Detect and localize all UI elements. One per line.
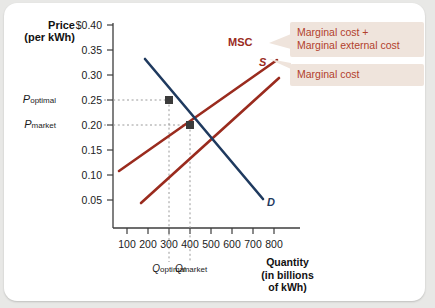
price-label-market-sub: market (32, 121, 56, 130)
x-axis-title-line3: of kWh) (240, 281, 335, 294)
y-tick-label-2: 0.30 (58, 69, 102, 81)
y-tick-label-6: 0.10 (58, 169, 102, 181)
price-label-market: Pmarket (8, 118, 56, 130)
y-tick-label-3: 0.25 (58, 94, 102, 106)
x-axis-title-line2: (in billions (240, 269, 335, 282)
callout-marginal-cost: Marginal cost (290, 64, 424, 86)
price-label-optimal: Poptimal (8, 93, 56, 105)
curve-label-msc: MSC (228, 36, 252, 48)
callout-msc-line2: Marginal external cost (297, 39, 417, 52)
callout-mc-line1: Marginal cost (297, 68, 417, 81)
callout-msc-line1: Marginal cost + (297, 26, 417, 39)
x-tick-label-7: 800 (260, 238, 288, 250)
curve-label-demand: D (267, 196, 275, 208)
qty-label-optimal-letter: Q (152, 263, 160, 274)
y-axis-title-line2: (per kWh) (10, 31, 75, 43)
callout-marginal-social-cost: Marginal cost + Marginal external cost (290, 22, 424, 57)
qty-label-market-letter: Q (175, 263, 183, 274)
curve-demand (145, 59, 263, 199)
x-axis-title-line1: Quantity (240, 256, 335, 269)
equilibrium-marker-market (186, 121, 194, 129)
qty-label-market: Qmarket (167, 263, 215, 274)
curve-label-supply: S (259, 56, 266, 68)
y-tick-label-0: $0.40 (58, 19, 102, 31)
y-tick-label-4: 0.20 (58, 119, 102, 131)
y-tick-label-7: 0.05 (58, 194, 102, 206)
x-axis-title: Quantity (in billions of kWh) (240, 256, 335, 294)
x-tick-marks (127, 228, 274, 234)
callout-pointer-msc (269, 34, 291, 49)
price-label-optimal-sub: optimal (30, 96, 56, 105)
price-label-market-letter: P (24, 118, 31, 130)
equilibrium-marker-optimal (165, 96, 173, 104)
y-tick-label-5: 0.15 (58, 144, 102, 156)
curve-msc (119, 60, 277, 171)
y-tick-marks (107, 25, 113, 200)
qty-label-market-sub: market (183, 265, 207, 274)
y-tick-label-1: 0.35 (58, 44, 102, 56)
